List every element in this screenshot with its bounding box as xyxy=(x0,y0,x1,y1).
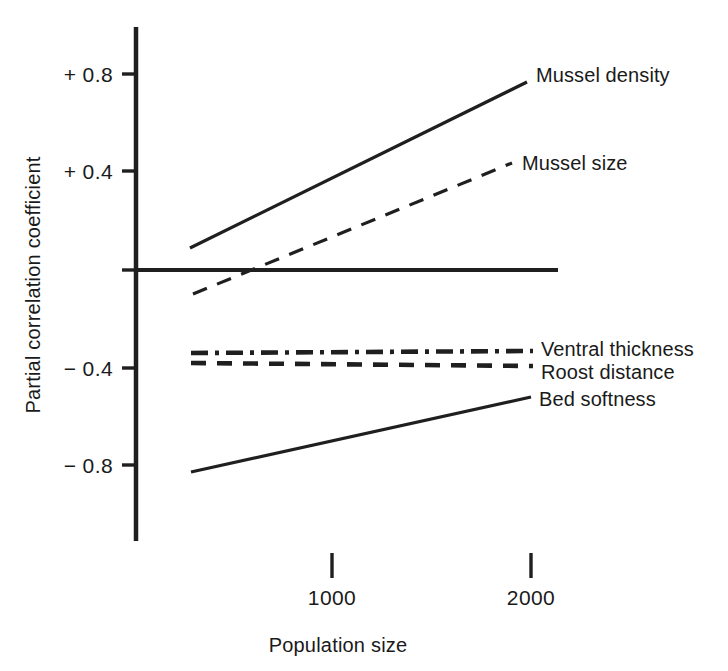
y-tick-label-1: + 0.4 xyxy=(64,160,113,183)
y-axis-title: Partial correlation coefficient xyxy=(22,156,44,413)
series-line-ventral-thickness xyxy=(191,351,533,353)
series-line-mussel-size xyxy=(193,163,512,294)
x-axis-title: Population size xyxy=(269,634,408,656)
x-tick-label-0: 1000 xyxy=(308,586,356,609)
series-line-mussel-density xyxy=(190,82,527,248)
y-tick-label-3: − 0.8 xyxy=(64,454,113,477)
series-label-ventral-thickness: Ventral thickness xyxy=(541,338,694,360)
series-label-mussel-size: Mussel size xyxy=(522,152,628,174)
series-line-bed-softness xyxy=(191,397,531,472)
series-label-mussel-density: Mussel density xyxy=(536,64,670,86)
series-label-bed-softness: Bed softness xyxy=(539,388,656,410)
series-line-roost-distance xyxy=(191,363,533,366)
chart-figure: + 0.8 + 0.4 − 0.4 − 0.8 Partial correlat… xyxy=(0,0,728,671)
chart-canvas: + 0.8 + 0.4 − 0.4 − 0.8 Partial correlat… xyxy=(0,0,728,671)
y-tick-label-0: + 0.8 xyxy=(64,63,113,86)
y-tick-label-2: − 0.4 xyxy=(64,357,113,380)
x-tick-label-1: 2000 xyxy=(507,586,555,609)
series-label-roost-distance: Roost distance xyxy=(541,361,675,383)
